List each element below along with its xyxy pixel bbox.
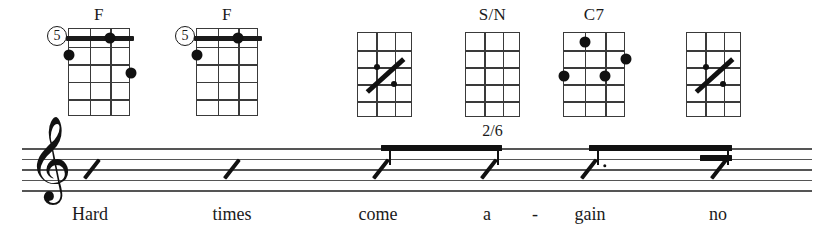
lyric-syllable: a <box>483 205 491 223</box>
lyric-syllable: times <box>213 205 252 223</box>
augmentation-dot <box>603 164 606 167</box>
music-staff: 𝄞 <box>0 0 829 235</box>
lyric-syllable: no <box>709 205 727 223</box>
lyric-syllable: gain <box>575 205 606 223</box>
lyric-syllable: Hard <box>72 205 108 223</box>
staff-line <box>22 159 812 161</box>
secondary-beam <box>700 155 732 161</box>
lyric-syllable: - <box>532 205 538 223</box>
lyric-syllable: come <box>359 205 398 223</box>
staff-line <box>22 190 812 192</box>
music-sheet-excerpt: F5F5S/N2/6C7 𝄞 Hardtimescomea-gainno <box>0 0 829 235</box>
primary-beam <box>589 145 732 151</box>
treble-clef-icon: 𝄞 <box>28 120 72 194</box>
staff-line <box>22 180 812 182</box>
staff-line <box>22 169 812 171</box>
primary-beam <box>381 145 502 151</box>
